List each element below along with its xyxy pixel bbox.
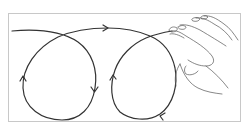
gesture-diagram [0,0,252,130]
hand-icon [169,16,238,95]
gesture-path [12,28,176,120]
